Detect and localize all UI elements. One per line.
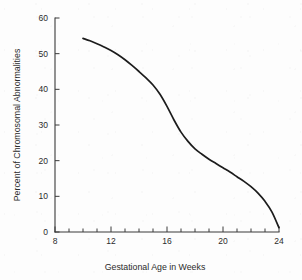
y-tick-label: 30 — [39, 120, 49, 130]
y-axis-title: Percent of Chromosomal Abnormalities — [12, 48, 22, 201]
line-chart: 0102030405060 812162024 Gestational Age … — [0, 0, 302, 280]
x-axis-tick-labels: 812162024 — [53, 236, 284, 246]
y-tick-label: 0 — [43, 227, 48, 237]
data-series-line — [83, 38, 279, 227]
chart-figure: 0102030405060 812162024 Gestational Age … — [0, 0, 302, 280]
x-tick-label: 12 — [106, 236, 116, 246]
x-axis-title: Gestational Age in Weeks — [105, 262, 206, 272]
y-tick-label: 20 — [39, 156, 49, 166]
y-axis-ticks — [55, 18, 60, 232]
y-tick-label: 40 — [39, 84, 49, 94]
y-axis-tick-labels: 0102030405060 — [39, 13, 49, 237]
x-tick-label: 16 — [162, 236, 172, 246]
x-axis-ticks — [55, 227, 279, 233]
x-tick-label: 24 — [274, 236, 284, 246]
y-tick-label: 50 — [39, 49, 49, 59]
y-tick-label: 60 — [39, 13, 49, 23]
x-tick-label: 8 — [53, 236, 58, 246]
y-tick-label: 10 — [39, 191, 49, 201]
x-tick-label: 20 — [218, 236, 228, 246]
